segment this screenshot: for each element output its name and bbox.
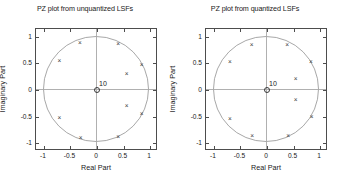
x-tick <box>150 29 151 32</box>
y-tick <box>153 63 156 64</box>
pole-marker-glyph: × <box>294 76 298 83</box>
y-axis-label: Imaginary Part <box>0 66 7 113</box>
y-tick <box>323 117 326 118</box>
x-tick-label: 0.5 <box>118 152 127 159</box>
y-tick <box>206 90 209 91</box>
plot-title: PZ plot from unquantized LSFs <box>0 4 170 13</box>
pole-marker-glyph: × <box>250 133 254 140</box>
y-tick <box>206 63 209 64</box>
zero-multiplicity-label: 10 <box>269 80 277 87</box>
panel-unquantized: PZ plot from unquantized LSFs ××××××××××… <box>0 0 170 182</box>
y-tick <box>323 37 326 38</box>
x-tick <box>214 146 215 149</box>
x-tick <box>44 146 45 149</box>
pole-marker-glyph: × <box>57 58 61 65</box>
x-tick-label: 1 <box>317 152 321 159</box>
x-tick <box>240 29 241 32</box>
pole-marker-glyph: × <box>294 97 298 104</box>
y-tick-label: -1 <box>182 139 202 146</box>
y-tick <box>153 37 156 38</box>
panel-quantized: PZ plot from quantized LSFs ××××××××××10… <box>170 0 340 182</box>
x-tick <box>124 146 125 149</box>
pole-marker-glyph: × <box>116 133 120 140</box>
pole-marker-glyph: × <box>79 134 83 141</box>
y-tick-label: -0.5 <box>182 112 202 119</box>
x-tick <box>294 29 295 32</box>
y-tick-label: 0.5 <box>12 59 32 66</box>
x-tick-label: -1 <box>40 152 46 159</box>
x-tick <box>240 146 241 149</box>
y-tick <box>36 63 39 64</box>
y-tick <box>153 90 156 91</box>
y-tick <box>36 143 39 144</box>
pole-marker-glyph: × <box>228 115 232 122</box>
y-tick-label: -0.5 <box>12 112 32 119</box>
pole-marker-glyph: × <box>125 103 129 110</box>
figure-canvas: PZ plot from unquantized LSFs ××××××××××… <box>0 0 340 182</box>
pole-marker-glyph: × <box>286 133 290 140</box>
pole-marker-glyph: × <box>285 42 289 49</box>
pole-marker-glyph: × <box>228 59 232 66</box>
x-tick <box>267 146 268 149</box>
zero-marker <box>94 87 100 93</box>
y-tick <box>36 37 39 38</box>
x-tick <box>70 146 71 149</box>
y-tick-label: 0 <box>12 86 32 93</box>
pole-marker-glyph: × <box>57 115 61 122</box>
x-tick <box>97 146 98 149</box>
y-tick <box>206 143 209 144</box>
y-tick <box>153 117 156 118</box>
y-tick <box>323 63 326 64</box>
axes-box: ××××××××××10 <box>35 28 157 150</box>
zero-marker <box>264 87 270 93</box>
y-tick <box>153 143 156 144</box>
x-tick <box>150 146 151 149</box>
plot-title: PZ plot from quantized LSFs <box>170 4 340 13</box>
x-axis-label: Real Part <box>205 163 327 172</box>
x-tick <box>294 146 295 149</box>
pole-marker-glyph: × <box>116 41 120 48</box>
axes-box: ××××××××××10 <box>205 28 327 150</box>
x-axis-label: Real Part <box>35 163 157 172</box>
y-tick-label: -1 <box>12 139 32 146</box>
x-tick <box>320 146 321 149</box>
pole-marker-glyph: × <box>125 70 129 77</box>
x-tick <box>124 29 125 32</box>
pole-marker-glyph: × <box>140 62 144 69</box>
y-axis-label-text: Imaginary Part <box>168 66 177 113</box>
y-tick <box>323 90 326 91</box>
pole-marker-glyph: × <box>78 40 82 47</box>
x-tick-label: 0 <box>94 152 98 159</box>
y-tick <box>36 90 39 91</box>
x-tick-label: -1 <box>210 152 216 159</box>
x-tick-label: 0.5 <box>288 152 297 159</box>
x-tick <box>214 29 215 32</box>
pole-marker-glyph: × <box>140 111 144 118</box>
y-tick-label: 0 <box>182 86 202 93</box>
y-tick-label: 1 <box>182 32 202 39</box>
zero-multiplicity-label: 10 <box>99 80 107 87</box>
pole-marker-glyph: × <box>250 42 254 49</box>
x-tick-label: 0 <box>264 152 268 159</box>
x-tick-label: 1 <box>147 152 151 159</box>
x-tick-label: -0.5 <box>234 152 245 159</box>
x-tick <box>267 29 268 32</box>
y-axis-label-text: Imaginary Part <box>0 66 7 113</box>
x-tick <box>320 29 321 32</box>
y-tick-label: 0.5 <box>182 59 202 66</box>
x-tick <box>97 29 98 32</box>
pole-marker-glyph: × <box>310 114 314 121</box>
y-axis-label: Imaginary Part <box>168 66 177 113</box>
pole-marker-glyph: × <box>309 59 313 66</box>
y-tick <box>36 117 39 118</box>
x-tick <box>44 29 45 32</box>
y-tick <box>206 117 209 118</box>
x-tick <box>70 29 71 32</box>
x-tick-label: -0.5 <box>64 152 75 159</box>
y-tick <box>206 37 209 38</box>
y-tick-label: 1 <box>12 32 32 39</box>
y-tick <box>323 143 326 144</box>
